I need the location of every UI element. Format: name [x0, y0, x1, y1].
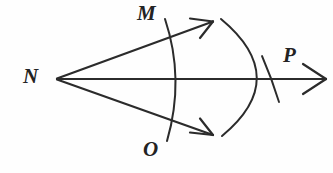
lower-arrowhead-icon [190, 119, 213, 136]
figure-canvas [0, 0, 333, 173]
point-label-n: N [23, 66, 38, 87]
geometry-figure: N M O P [0, 0, 333, 173]
upper-ray [57, 22, 213, 79]
point-label-o: O [143, 139, 158, 160]
point-label-m: M [137, 3, 156, 24]
compass-arc-large [221, 19, 257, 136]
point-label-p: P [283, 45, 296, 66]
lower-ray [57, 80, 213, 136]
